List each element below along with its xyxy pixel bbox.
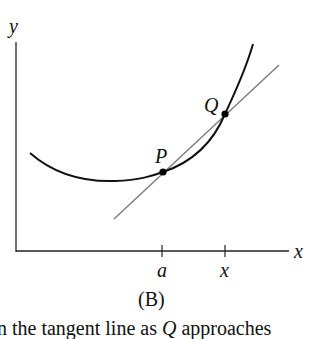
body-text-var: Q <box>162 317 176 339</box>
secant-line <box>114 65 279 219</box>
point-p <box>159 168 166 175</box>
body-text-prefix: n the tangent line as <box>0 317 162 339</box>
tick-label-x: x <box>220 260 229 280</box>
y-axis-label: y <box>9 16 18 36</box>
point-label-q: Q <box>204 95 218 115</box>
body-text-line: n the tangent line as Q approaches <box>0 318 271 338</box>
tick-label-a: a <box>157 260 167 280</box>
point-q <box>221 110 228 117</box>
body-text-suffix: approaches <box>176 317 271 339</box>
point-label-p: P <box>155 146 167 166</box>
figure-caption: (B) <box>138 289 165 309</box>
curve <box>30 44 253 181</box>
x-axis-label: x <box>294 241 303 261</box>
